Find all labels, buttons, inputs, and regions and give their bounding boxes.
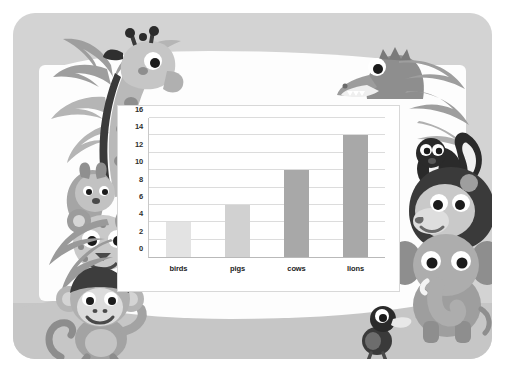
bars-layer: birdspigscowslions bbox=[149, 118, 385, 257]
y-axis-tick-label: 14 bbox=[135, 122, 143, 131]
bar-slot: cows bbox=[267, 118, 326, 257]
y-axis-tick-label: 12 bbox=[135, 139, 143, 148]
x-axis-tick-label: birds bbox=[170, 264, 188, 273]
y-axis-tick-label: 10 bbox=[135, 157, 143, 166]
y-axis-tick-label: 4 bbox=[139, 209, 143, 218]
y-axis-tick-label: 16 bbox=[135, 105, 143, 114]
x-axis-tick-label: pigs bbox=[230, 264, 245, 273]
bar-slot: pigs bbox=[208, 118, 267, 257]
y-axis-tick-label: 6 bbox=[139, 191, 143, 200]
bar-cows[interactable] bbox=[284, 170, 310, 257]
x-axis-tick-label: lions bbox=[347, 264, 364, 273]
y-axis-tick-label: 0 bbox=[139, 244, 143, 253]
chart-inner: 0246810121416 birdspigscowslions bbox=[118, 106, 399, 291]
bar-birds[interactable] bbox=[166, 222, 192, 257]
bar-chart[interactable]: 0246810121416 birdspigscowslions bbox=[117, 105, 400, 292]
bar-slot: lions bbox=[326, 118, 385, 257]
y-axis-tick-label: 2 bbox=[139, 226, 143, 235]
bar-pigs[interactable] bbox=[225, 205, 251, 257]
bar-slot: birds bbox=[149, 118, 208, 257]
poster-card: 0246810121416 birdspigscowslions bbox=[13, 13, 492, 359]
bar-lions[interactable] bbox=[343, 135, 369, 257]
y-axis-tick-label: 8 bbox=[139, 174, 143, 183]
x-axis-tick-label: cows bbox=[287, 264, 305, 273]
plot-area: 0246810121416 birdspigscowslions bbox=[148, 118, 385, 258]
